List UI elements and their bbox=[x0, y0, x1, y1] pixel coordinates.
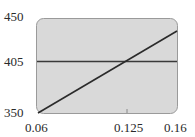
y-tick-450: 450 bbox=[4, 9, 24, 24]
x-tick-label-006: 0.06 bbox=[25, 120, 48, 135]
plot-area bbox=[37, 19, 178, 114]
x-tick-label-0125: 0.125 bbox=[114, 120, 143, 135]
chart: 450 405 350 0.06 0.125 0.16 bbox=[0, 0, 195, 137]
y-tick-405: 405 bbox=[4, 54, 24, 69]
y-tick-350: 350 bbox=[4, 105, 24, 120]
x-tick-label-016: 0.16 bbox=[164, 120, 187, 135]
